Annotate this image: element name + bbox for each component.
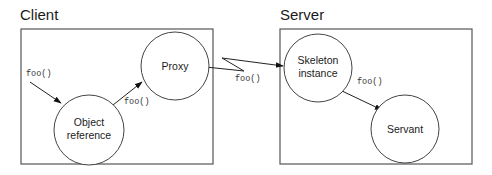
skeleton-instance-label-line2: instance [298, 67, 337, 79]
edge-skeleton-to-servant [342, 91, 382, 110]
object-reference-label-line2: reference [67, 129, 112, 141]
distributed-object-diagram: Client Server Proxy Object reference Ske… [0, 0, 492, 175]
node-object-reference: Object reference [54, 95, 124, 165]
skeleton-instance-label-line1: Skeleton [298, 54, 339, 66]
proxy-label: Proxy [162, 60, 190, 72]
call-label-skeleton-to-servant: foo() [357, 77, 383, 87]
node-skeleton-instance: Skeleton instance [284, 34, 352, 102]
client-region-title: Client [20, 6, 59, 23]
node-servant: Servant [371, 95, 439, 163]
call-label-network: foo() [235, 74, 261, 84]
object-reference-label-line1: Object [74, 116, 104, 128]
edge-external-to-object-reference [30, 82, 61, 103]
call-label-external: foo() [26, 69, 52, 79]
node-proxy: Proxy [141, 32, 209, 100]
server-region-title: Server [280, 6, 324, 23]
servant-label: Servant [387, 123, 423, 135]
call-label-object-reference-to-proxy: foo() [124, 97, 150, 107]
